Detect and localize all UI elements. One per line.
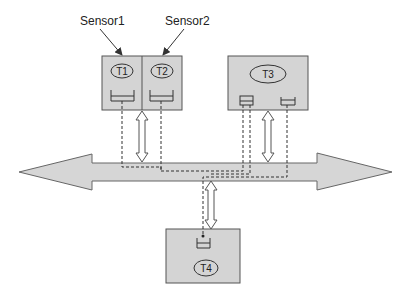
node-t3: T3 (228, 56, 308, 110)
node-t1-t2: T1 T2 (102, 56, 182, 110)
link-t3-bus (262, 111, 274, 162)
bus-arrow (19, 153, 392, 190)
t4-label: T4 (200, 263, 212, 274)
link-bus-t4 (205, 181, 217, 229)
t2-label: T2 (156, 66, 168, 77)
system-diagram: Sensor1 Sensor2 T1 T2 T3 T4 (0, 0, 413, 303)
t3-label: T3 (262, 69, 274, 80)
link-t12-bus (136, 111, 148, 162)
sensor2-pointer (163, 29, 184, 55)
t1-label: T1 (116, 66, 128, 77)
sensor2-label: Sensor2 (165, 14, 210, 28)
sensor1-label: Sensor1 (80, 14, 125, 28)
node-t4: T4 (166, 229, 240, 283)
sensor1-pointer (100, 29, 122, 55)
